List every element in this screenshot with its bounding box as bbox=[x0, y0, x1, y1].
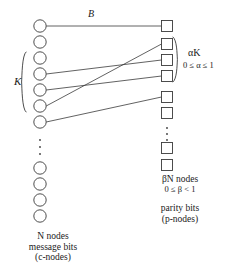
p-node-4 bbox=[162, 71, 173, 82]
left-brace-K bbox=[22, 52, 26, 112]
c-node-ellipsis-icon bbox=[39, 139, 41, 155]
p-node-3 bbox=[162, 55, 173, 66]
p-node-group bbox=[162, 21, 173, 171]
p-node-5 bbox=[162, 92, 173, 103]
p-node-8 bbox=[162, 160, 173, 171]
p-node-1 bbox=[162, 21, 173, 32]
right-node-type-caption: parity bits (p-nodes) bbox=[144, 203, 216, 224]
edge-label-B: B bbox=[88, 8, 94, 19]
edge-group bbox=[46, 26, 161, 122]
parity-bits-label: parity bits bbox=[144, 203, 216, 214]
c-node-2 bbox=[34, 36, 46, 48]
c-nodes-label: (c-nodes) bbox=[8, 252, 98, 263]
right-node-count-caption: βN nodes 0 ≤ β < 1 bbox=[144, 174, 216, 194]
c-node-9 bbox=[34, 178, 46, 190]
p-node-ellipsis-icon bbox=[166, 127, 168, 141]
brace-label-K: K bbox=[14, 75, 21, 87]
c-node-group bbox=[34, 20, 46, 222]
p-node-ellipsis-dot-1 bbox=[166, 127, 168, 129]
p-node-ellipsis-dot-2 bbox=[166, 133, 168, 135]
c-node-10 bbox=[34, 194, 46, 206]
c-node-1 bbox=[34, 20, 46, 32]
c-node-ellipsis-dot-3 bbox=[39, 153, 41, 155]
c-node-11 bbox=[34, 210, 46, 222]
message-bits-label: message bits bbox=[8, 242, 98, 253]
alpha-range-label: 0 ≤ α ≤ 1 bbox=[183, 61, 214, 71]
c-node-3 bbox=[34, 52, 46, 64]
p-nodes-label: (p-nodes) bbox=[144, 214, 216, 225]
right-brace-alpha-K bbox=[173, 37, 177, 82]
edge-7-to-5 bbox=[46, 97, 161, 122]
beta-range-label: 0 ≤ β < 1 bbox=[144, 185, 216, 195]
edge-5-to-4 bbox=[46, 76, 161, 90]
n-nodes-label: N nodes bbox=[8, 231, 98, 242]
edge-4-to-3 bbox=[46, 60, 161, 74]
c-node-7 bbox=[34, 116, 46, 128]
p-node-7 bbox=[162, 143, 173, 154]
c-node-4 bbox=[34, 68, 46, 80]
ldpc-tanner-graph-diagram: B K αK 0 ≤ α ≤ 1 βN nodes 0 ≤ β < 1 pari… bbox=[0, 0, 225, 266]
c-node-ellipsis-dot-2 bbox=[39, 146, 41, 148]
c-node-ellipsis-dot-1 bbox=[39, 139, 41, 141]
brace-label-alpha-K: αK bbox=[188, 47, 200, 58]
edge-6-to-2 bbox=[46, 44, 161, 106]
p-node-ellipsis-dot-3 bbox=[166, 139, 168, 141]
c-node-5 bbox=[34, 84, 46, 96]
diagram-canvas bbox=[0, 0, 225, 266]
left-node-caption: N nodes message bits (c-nodes) bbox=[8, 231, 98, 263]
c-node-8 bbox=[34, 162, 46, 174]
c-node-6 bbox=[34, 100, 46, 112]
p-node-6 bbox=[162, 108, 173, 119]
p-node-2 bbox=[162, 39, 173, 50]
